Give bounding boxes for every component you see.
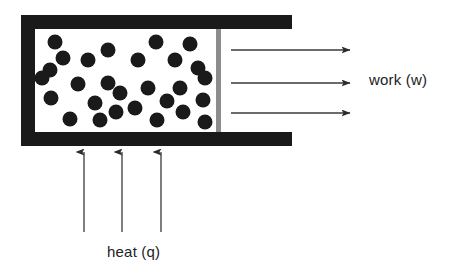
gas-particle	[183, 37, 198, 52]
work-label: work (w)	[369, 71, 427, 88]
gas-particle	[48, 35, 63, 50]
gas-particle	[109, 105, 124, 120]
gas-particle	[168, 53, 183, 68]
gas-particle	[56, 51, 71, 66]
piston-diagram-svg	[0, 0, 457, 276]
cylinder-top-wall	[21, 15, 292, 29]
gas-particle	[128, 101, 143, 116]
gas-particle	[93, 113, 108, 128]
gas-particle	[150, 113, 165, 128]
gas-particle	[101, 43, 116, 58]
gas-particle	[141, 81, 156, 96]
diagram-canvas: work (w) heat (q)	[0, 0, 457, 276]
gas-particle	[196, 93, 211, 108]
gas-particle	[113, 86, 128, 101]
gas-particle	[71, 77, 86, 92]
gas-particle	[131, 53, 146, 68]
cylinder-left-wall	[21, 15, 35, 146]
gas-particle	[198, 115, 213, 130]
gas-particle	[198, 71, 213, 86]
gas-particle	[88, 96, 103, 111]
gas-particle	[35, 71, 50, 86]
gas-particle	[149, 35, 164, 50]
cylinder-bottom-wall	[21, 132, 292, 146]
gas-particle	[44, 91, 59, 106]
heat-label: heat (q)	[107, 243, 160, 260]
gas-particle	[63, 112, 78, 127]
gas-particle	[160, 94, 175, 109]
gas-particle	[81, 53, 96, 68]
gas-particle	[176, 105, 191, 120]
gas-particle	[101, 76, 116, 91]
piston-face	[216, 29, 221, 132]
gas-particle	[173, 81, 188, 96]
